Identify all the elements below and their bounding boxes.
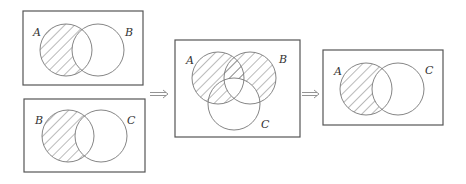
label-b: B [278, 53, 287, 66]
venn-three-sets: A B C [175, 40, 300, 137]
label-b: B [124, 26, 133, 39]
implies-arrow-icon [150, 90, 168, 98]
label-a: A [32, 26, 41, 39]
label-c: C [425, 64, 434, 77]
venn-diagram-sequence: A B B C A B C [0, 0, 466, 184]
venn-a-minus-c: A C [323, 50, 443, 125]
label-c: C [261, 118, 270, 131]
label-a: A [185, 54, 194, 67]
label-a: A [333, 65, 342, 78]
implies-arrow-icon [302, 90, 319, 98]
venn-a-minus-b: A B [23, 11, 143, 85]
label-c: C [127, 114, 136, 127]
venn-b-minus-c: B C [24, 99, 145, 172]
label-b: B [34, 114, 43, 127]
